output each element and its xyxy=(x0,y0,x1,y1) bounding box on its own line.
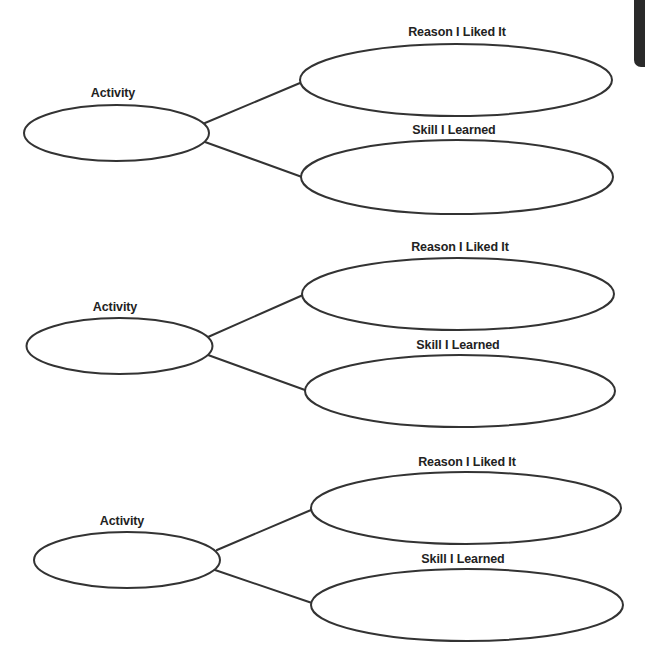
reason-bubble[interactable] xyxy=(300,44,612,116)
reason-label: Reason I Liked It xyxy=(411,240,509,254)
reason-label: Reason I Liked It xyxy=(408,25,506,39)
connector-to-skill xyxy=(205,142,302,177)
organizer-group-2 xyxy=(27,258,616,427)
connector-to-reason xyxy=(205,83,300,123)
activity-bubble[interactable] xyxy=(24,105,209,161)
connector-to-reason xyxy=(217,510,311,550)
connector-to-skill xyxy=(208,355,305,390)
skill-bubble[interactable] xyxy=(305,355,615,427)
skill-label: Skill I Learned xyxy=(412,123,495,137)
organizer-canvas xyxy=(0,0,645,668)
activity-bubble[interactable] xyxy=(27,318,213,374)
organizer-group-3 xyxy=(34,472,623,641)
connector-to-reason xyxy=(208,295,303,337)
skill-bubble[interactable] xyxy=(301,140,613,214)
activity-label: Activity xyxy=(93,300,137,314)
activity-label: Activity xyxy=(91,86,135,100)
reason-bubble[interactable] xyxy=(311,472,621,544)
page-edge-tab xyxy=(634,0,645,67)
skill-label: Skill I Learned xyxy=(421,552,504,566)
connector-to-skill xyxy=(215,570,312,603)
activity-label: Activity xyxy=(100,514,144,528)
reason-bubble[interactable] xyxy=(302,258,614,330)
skill-bubble[interactable] xyxy=(311,569,623,641)
organizer-group-1 xyxy=(24,44,613,214)
activity-bubble[interactable] xyxy=(34,532,220,588)
reason-label: Reason I Liked It xyxy=(418,455,516,469)
skill-label: Skill I Learned xyxy=(416,338,499,352)
